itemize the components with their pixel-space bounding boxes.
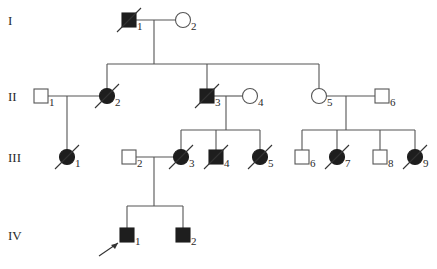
individual-number: 7 [345, 157, 351, 169]
individual-iii-9: 9 [403, 145, 429, 169]
individual-ii-4: 4 [243, 89, 265, 109]
individual-number: 3 [215, 96, 221, 108]
individual-number: 5 [327, 96, 333, 108]
individual-number: 3 [189, 157, 195, 169]
unaffected-female-icon [243, 89, 258, 104]
individual-number: 4 [224, 157, 230, 169]
individual-iv-2: 2 [176, 228, 197, 247]
individual-number: 4 [258, 96, 264, 108]
unaffected-male-icon [373, 150, 387, 164]
individual-iii-8: 8 [373, 150, 394, 169]
arrow-head-icon [111, 243, 118, 249]
pedigree-chart: IIIIIIIV 1212345612345678912 [0, 0, 437, 269]
generation-label: IV [8, 228, 22, 243]
individual-number: 6 [390, 96, 396, 108]
individual-ii-6: 6 [375, 89, 396, 108]
proband-arrow-icon [99, 243, 118, 256]
individual-number: 9 [423, 157, 429, 169]
individual-number: 8 [388, 157, 394, 169]
individual-number: 1 [75, 157, 81, 169]
relationship-lines [48, 20, 415, 228]
individual-i-1: 1 [117, 8, 143, 32]
individual-number: 2 [191, 20, 197, 32]
individual-iii-5: 5 [248, 145, 274, 169]
unaffected-female-icon [312, 89, 327, 104]
individual-i-2: 2 [176, 13, 197, 33]
individuals: 1212345612345678912 [34, 8, 429, 247]
individual-iii-6: 6 [295, 150, 316, 169]
individual-iii-4: 4 [204, 145, 230, 169]
individual-number: 2 [191, 235, 197, 247]
unaffected-male-icon [122, 150, 136, 164]
unaffected-male-icon [375, 89, 389, 103]
individual-number: 2 [137, 157, 143, 169]
individual-ii-5: 5 [312, 89, 334, 109]
individual-iv-1: 1 [120, 228, 141, 247]
individual-iii-7: 7 [325, 145, 351, 169]
affected-male-icon [176, 228, 190, 242]
generation-label: II [8, 89, 17, 104]
individual-ii-1: 1 [34, 89, 55, 108]
generation-label: I [8, 13, 12, 28]
generation-label: III [8, 150, 21, 165]
unaffected-female-icon [176, 13, 191, 28]
generation-labels: IIIIIIIV [8, 13, 22, 243]
individual-number: 1 [49, 96, 55, 108]
individual-number: 1 [137, 20, 143, 32]
unaffected-male-icon [295, 150, 309, 164]
individual-iii-1: 1 [55, 145, 81, 169]
affected-male-icon [120, 228, 134, 242]
individual-number: 1 [135, 235, 141, 247]
individual-ii-3: 3 [195, 84, 221, 108]
unaffected-male-icon [34, 89, 48, 103]
individual-iii-2: 2 [122, 150, 143, 169]
individual-number: 6 [310, 157, 316, 169]
individual-number: 2 [115, 96, 121, 108]
individual-number: 5 [268, 157, 274, 169]
